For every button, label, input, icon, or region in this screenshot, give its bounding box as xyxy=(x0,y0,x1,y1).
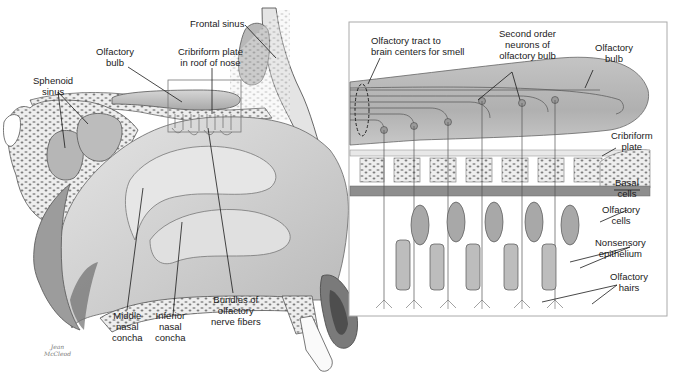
label-middle-nasal-concha: Middle nasal concha xyxy=(112,310,143,343)
label-sphenoid-sinus: Sphenoid sinus xyxy=(33,75,73,97)
label-olfactory-bulb: Olfactory bulb xyxy=(96,46,134,68)
label-nerve-fiber-bundles: Bundles of olfactory nerve fibers xyxy=(211,294,261,327)
anatomy-figure: Frontal sinus Olfactory bulb Cribriform … xyxy=(0,0,675,381)
label-frontal-sinus: Frontal sinus xyxy=(190,18,244,29)
artist-signature: Jean McCleod xyxy=(44,343,71,357)
label-nonsensory-epithelium: Nonsensory epithelium xyxy=(595,237,646,259)
label-cribriform-plate: Cribriform plate in roof of nose xyxy=(178,46,243,68)
label-olfactory-tract: Olfactory tract to brain centers for sme… xyxy=(371,35,464,57)
label-inset-olfactory-bulb: Olfactory bulb xyxy=(595,42,633,64)
label-inset-cribriform-plate: Cribriform plate xyxy=(611,130,653,152)
label-olfactory-cells: Olfactory cells xyxy=(602,204,640,226)
label-basal-cells: Basal cells xyxy=(615,177,639,199)
label-olfactory-hairs: Olfactory hairs xyxy=(610,271,648,293)
label-inferior-nasal-concha: Inferior nasal concha xyxy=(155,310,186,343)
label-second-order-neurons: Second order neurons of olfactory bulb xyxy=(499,28,556,61)
